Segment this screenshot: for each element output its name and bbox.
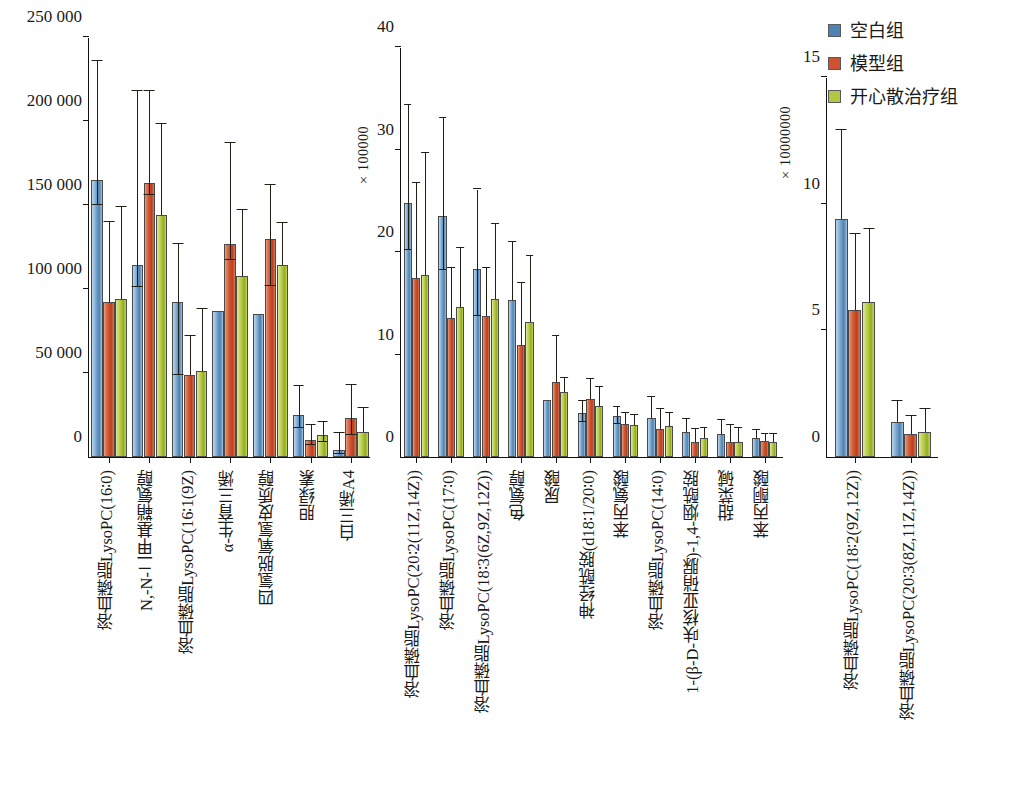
error-bar-cap [682, 418, 690, 419]
error-bar [137, 91, 138, 288]
error-bar-cap [277, 222, 288, 223]
error-bar-cap [317, 421, 328, 422]
bar-treat [769, 442, 777, 457]
error-bar [625, 413, 626, 424]
error-bar-cap [482, 267, 490, 268]
error-bar-cap [665, 412, 673, 413]
x-axis-category-label: 溶血磷脂LysoPC(20∶3(8Z,11Z,14Z)) [901, 470, 918, 720]
bar-group [508, 48, 534, 457]
x-tick-mark [521, 457, 522, 463]
bar-blank [543, 400, 551, 457]
bar-group [212, 38, 248, 457]
error-bar [408, 105, 409, 250]
error-bar [556, 336, 557, 382]
legend-item-model[interactable]: 模型组 [828, 47, 1008, 80]
bar-group [891, 78, 931, 457]
error-bar-cap [92, 204, 103, 205]
y-tick-label: 10 [377, 325, 401, 345]
error-bar-cap [613, 406, 621, 407]
error-bar [911, 416, 912, 434]
y-tick-label: 250 000 [27, 7, 89, 27]
bar-treat [862, 302, 875, 457]
error-bar-cap [132, 90, 143, 91]
x-tick-mark [190, 457, 191, 463]
y-tick-label: 30 [377, 120, 401, 140]
bar-blank [835, 219, 848, 457]
bar-treat [115, 299, 127, 457]
x-axis-category-label: 溶血磷脂LysoPC(20∶2(11Z,14Z)) [406, 470, 423, 698]
x-tick-mark [270, 457, 271, 463]
bar-group [647, 48, 673, 457]
bar-treat [700, 438, 708, 457]
x-axis-category-label: 溶血磷脂LysoPC(14∶0) [650, 470, 667, 630]
error-bar-cap [578, 400, 586, 401]
error-bar [564, 378, 565, 392]
panel-1: 050 000100 000150 000200 000250 000 溶血磷脂… [88, 38, 370, 458]
bar-model [517, 345, 525, 457]
error-bar-cap [587, 378, 595, 379]
x-axis-category-label: 溶血磷脂LysoPC(16∶0) [99, 470, 116, 630]
bar-model [184, 375, 196, 457]
bar-blank [647, 418, 655, 457]
error-bar [339, 433, 340, 453]
error-bar [651, 397, 652, 419]
error-bar [521, 283, 522, 346]
legend-item-blank[interactable]: 空白组 [828, 14, 1008, 47]
x-tick-mark [109, 457, 110, 463]
error-bar [925, 409, 926, 432]
error-bar [363, 408, 364, 432]
error-bar [617, 407, 618, 424]
error-bar [323, 422, 324, 442]
x-axis-category-label: α-生育三烯 [220, 470, 237, 552]
x-tick-mark [660, 457, 661, 463]
error-bar [721, 420, 722, 434]
y-tick-label: 15 [803, 47, 827, 67]
error-bar [773, 434, 774, 441]
error-bar-cap [691, 428, 699, 429]
x-tick-mark [230, 457, 231, 463]
error-bar-cap [439, 117, 447, 118]
y-tick-label: 200 000 [27, 91, 89, 111]
x-tick-mark [451, 457, 452, 463]
bar-model [621, 424, 629, 457]
bar-treat [357, 432, 369, 457]
error-bar [230, 143, 231, 261]
error-bar [695, 429, 696, 441]
bar-model [760, 441, 768, 457]
error-bar [425, 153, 426, 275]
error-bar-cap [156, 123, 167, 124]
error-bar [351, 385, 352, 435]
y-tick-label: 0 [386, 427, 402, 447]
x-tick-mark [695, 457, 696, 463]
bar-model [691, 442, 699, 457]
bar-group [682, 48, 708, 457]
bar-blank [891, 422, 904, 457]
bar-blank [253, 314, 265, 457]
y-tick-mark [83, 204, 89, 205]
legend-swatch-model [828, 57, 841, 70]
error-bar-cap [305, 444, 316, 445]
error-bar-cap [526, 255, 534, 256]
error-bar-cap [552, 335, 560, 336]
bar-treat [595, 406, 603, 457]
error-bar [178, 244, 179, 375]
error-bar-cap [184, 335, 195, 336]
bar-group [835, 78, 875, 457]
error-bar-cap [717, 419, 725, 420]
error-bar [765, 434, 766, 440]
x-axis-category-label: 溶血磷脂LysoPC(16∶1(9Z) [180, 470, 197, 654]
panel-3: 051015 ×10000000 溶血磷脂LysoPC(18∶2(9Z,12Z)… [826, 78, 938, 458]
error-bar-cap [293, 385, 304, 386]
y-tick-label: 150 000 [27, 175, 89, 195]
error-bar-cap [560, 377, 568, 378]
bar-blank [752, 438, 760, 457]
x-tick-mark [625, 457, 626, 463]
x-tick-mark [149, 457, 150, 463]
error-bar [730, 425, 731, 441]
error-bar-cap [333, 453, 344, 454]
bar-treat [156, 215, 168, 457]
bar-group [91, 38, 127, 457]
error-bar [704, 428, 705, 437]
x-axis-category-label: 四氢脱氧氢皮质醇 [260, 470, 277, 606]
error-bar-cap [863, 228, 874, 229]
